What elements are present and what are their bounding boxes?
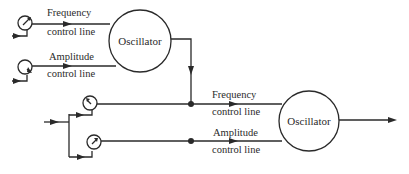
knob-icon[interactable] [87, 135, 101, 149]
junction-dot-icon [188, 138, 194, 144]
top-oscillator: Oscillator [109, 10, 171, 72]
bottom-frequency-label: Frequency [212, 89, 257, 100]
top-amplitude-label: Amplitude [49, 51, 94, 62]
arrow-icon [388, 117, 397, 123]
top-frequency-input [12, 30, 27, 39]
bottom-amplitude-label: Amplitude [213, 127, 258, 138]
arrow-icon [77, 154, 85, 160]
bottom-oscillator-label: Oscillator [287, 115, 331, 127]
top-frequency-sublabel: control line [47, 26, 95, 37]
arrow-icon [188, 66, 194, 75]
bottom-amplitude-sublabel: control line [212, 144, 260, 155]
knob-icon[interactable] [18, 16, 32, 30]
top-frequency-label: Frequency [47, 7, 92, 18]
bottom-frequency-sublabel: control line [212, 106, 260, 117]
top-amplitude-input [12, 75, 27, 84]
top-oscillator-output-line [171, 39, 191, 104]
arrow-icon [76, 112, 84, 118]
arrow-icon [13, 78, 21, 84]
bottom-oscillator: Oscillator [279, 91, 339, 151]
junction-dot-icon [188, 101, 194, 107]
oscillator-modulation-diagram: Frequency control line Amplitude control… [0, 0, 409, 174]
top-oscillator-label: Oscillator [118, 35, 162, 47]
knob-icon[interactable] [18, 60, 32, 74]
knob-icon[interactable] [83, 96, 97, 110]
arrow-icon [13, 33, 21, 39]
top-amplitude-sublabel: control line [47, 68, 95, 79]
arrow-icon [50, 119, 59, 125]
